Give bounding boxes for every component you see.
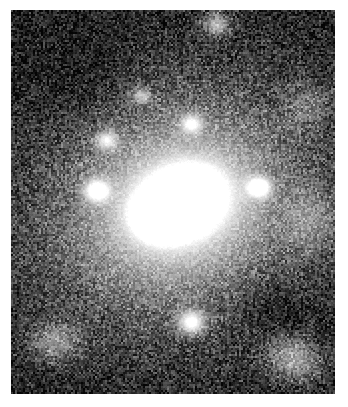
screenshot-root bbox=[0, 0, 348, 407]
galaxy-image-canvas bbox=[11, 10, 335, 394]
astronomy-image-frame bbox=[11, 10, 335, 394]
